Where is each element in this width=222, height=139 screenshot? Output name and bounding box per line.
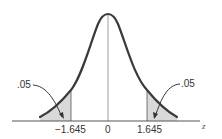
tick-label-pos: 1.645 (137, 124, 162, 135)
right-area-label: .05 (181, 78, 195, 89)
bell-curve (40, 14, 177, 117)
axis-variable-label: z (201, 121, 206, 131)
left-area-label: .05 (17, 79, 31, 90)
tick-label-neg: −1.645 (55, 124, 86, 135)
tick-label-zero: 0 (105, 124, 111, 135)
normal-distribution-chart: .05 .05 −1.645 0 1.645 z (0, 0, 222, 139)
